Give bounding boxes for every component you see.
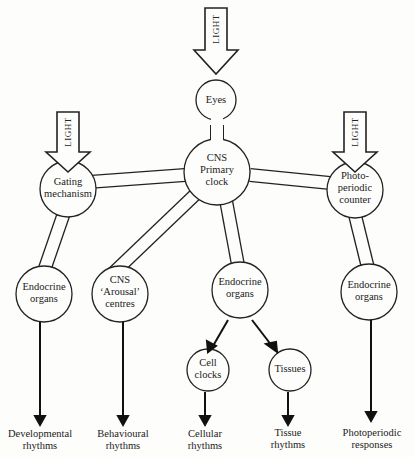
label-endocrine-left: Endocrineorgans <box>22 281 65 305</box>
label-gating-mechanism: Gatingmechanism <box>44 176 92 200</box>
label-endocrine-right: Endocrineorgans <box>347 279 390 303</box>
label-endocrine-mid: Endocrineorgans <box>218 276 261 300</box>
output-tissue-rhythms: Tissuerhythms <box>271 427 305 451</box>
label-eyes: Eyes <box>206 94 226 106</box>
output-cellular-rhythms: Cellularrhythms <box>188 428 222 452</box>
diagram-canvas <box>0 0 414 457</box>
label-cns-arousal: CNS‘Arousal’centres <box>100 274 140 310</box>
light-label-photoperiodic: LIGHT <box>350 117 360 147</box>
output-behavioural-rhythms: Behaviouralrhythms <box>97 428 148 452</box>
label-cell-clocks: Cellclocks <box>195 357 222 381</box>
light-label-eyes: LIGHT <box>211 14 221 44</box>
label-tissues: Tissues <box>274 363 305 375</box>
light-label-gating: LIGHT <box>63 117 73 147</box>
output-developmental-rhythms: Developmentalrhythms <box>8 428 72 452</box>
label-photoperiodic-counter: Photo-periodiccounter <box>338 170 372 206</box>
label-cns-primary-clock: CNSPrimaryclock <box>200 152 234 188</box>
output-photoperiodic-responses: Photoperiodicresponses <box>343 427 402 451</box>
